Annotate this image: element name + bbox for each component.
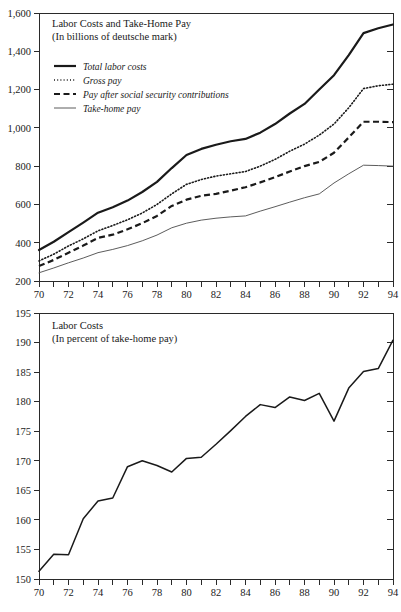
y-tick-label: 1,400 <box>7 46 31 57</box>
y-tick-label: 180 <box>15 396 31 407</box>
chart-title-top: Labor Costs and Take-Home Pay <box>52 18 192 29</box>
y-tick-label: 1,600 <box>7 8 31 19</box>
chart-title-bottom: Labor Costs <box>52 320 103 331</box>
x-axis-ticks-bottom <box>39 579 393 585</box>
y-tick-label: 155 <box>15 544 31 555</box>
chart-svg-bottom: 195190185180175170165160155150 707274767… <box>0 305 401 612</box>
y-axis-tick-labels-bottom: 195190185180175170165160155150 <box>15 308 31 585</box>
y-axis-ticks-bottom <box>34 313 39 579</box>
y-axis-ticks-top-right <box>387 51 393 242</box>
x-tick-label: 76 <box>122 289 133 300</box>
x-axis-tick-labels-bottom: 70727476788082848688909294 <box>34 587 399 598</box>
y-axis-ticks-top <box>34 13 39 281</box>
y-tick-label: 150 <box>15 574 31 585</box>
x-tick-label: 78 <box>152 587 163 598</box>
legend-label-pay-after-social-security: Pay after social security contributions <box>82 90 229 100</box>
series-line-total-labor-costs <box>39 24 393 250</box>
y-tick-label: 190 <box>15 337 31 348</box>
y-tick-label: 200 <box>15 276 31 287</box>
series-line-labor-costs-ratio <box>39 340 393 571</box>
chart-panel-labor-costs-levels: 1,6001,4001,2001,000800600400200 7072747… <box>0 0 401 305</box>
x-tick-label: 72 <box>63 289 74 300</box>
y-axis-ticks-bottom-right <box>387 343 393 550</box>
x-tick-label: 84 <box>240 289 251 300</box>
x-tick-label: 80 <box>181 289 192 300</box>
y-tick-label: 800 <box>15 161 31 172</box>
x-tick-label: 94 <box>388 587 399 598</box>
x-tick-label: 86 <box>270 289 281 300</box>
y-tick-label: 165 <box>15 485 31 496</box>
y-axis-tick-labels-top: 1,6001,4001,2001,000800600400200 <box>7 8 31 287</box>
x-tick-label: 86 <box>270 587 281 598</box>
x-tick-label: 90 <box>329 587 340 598</box>
y-tick-label: 160 <box>15 515 31 526</box>
legend-label-total-labor-costs: Total labor costs <box>83 62 147 72</box>
chart-subtitle-bottom: (In percent of take-home pay) <box>52 333 178 345</box>
x-tick-label: 72 <box>63 587 74 598</box>
x-tick-label: 74 <box>93 587 104 598</box>
x-tick-label: 92 <box>358 289 369 300</box>
x-tick-label: 92 <box>358 587 369 598</box>
y-tick-label: 175 <box>15 426 31 437</box>
y-tick-label: 170 <box>15 456 31 467</box>
chart-subtitle-top: (In billions of deutsche mark) <box>52 31 177 43</box>
x-tick-label: 82 <box>211 289 222 300</box>
x-axis-ticks-top <box>39 281 393 287</box>
x-tick-label: 88 <box>299 587 310 598</box>
x-tick-label: 90 <box>329 289 340 300</box>
chart-panel-labor-costs-ratio: 195190185180175170165160155150 707274767… <box>0 305 401 612</box>
x-tick-label: 76 <box>122 587 133 598</box>
chart-legend-top: Total labor costs Gross pay Pay after so… <box>54 62 229 114</box>
y-tick-label: 195 <box>15 308 31 319</box>
y-tick-label: 185 <box>15 367 31 378</box>
legend-label-take-home-pay: Take-home pay <box>83 104 141 114</box>
x-axis-tick-labels-top: 70727476788082848688909294 <box>34 289 399 300</box>
x-tick-label: 80 <box>181 587 192 598</box>
legend-label-gross-pay: Gross pay <box>83 76 122 86</box>
x-tick-label: 88 <box>299 289 310 300</box>
chart-svg-top: 1,6001,4001,2001,000800600400200 7072747… <box>0 0 401 305</box>
y-tick-label: 400 <box>15 238 31 249</box>
plot-frame-bottom <box>39 313 393 579</box>
figure-root: 1,6001,4001,2001,000800600400200 7072747… <box>0 0 401 612</box>
x-tick-label: 70 <box>34 587 45 598</box>
y-tick-label: 1,000 <box>7 123 31 134</box>
series-line-take-home-pay <box>39 165 393 273</box>
series-line-pay-after-social-security <box>39 122 393 266</box>
x-tick-label: 74 <box>93 289 104 300</box>
y-tick-label: 600 <box>15 199 31 210</box>
x-tick-label: 84 <box>240 587 251 598</box>
x-tick-label: 82 <box>211 587 222 598</box>
x-tick-label: 94 <box>388 289 399 300</box>
x-tick-label: 78 <box>152 289 163 300</box>
x-tick-label: 70 <box>34 289 45 300</box>
y-tick-label: 1,200 <box>7 84 31 95</box>
